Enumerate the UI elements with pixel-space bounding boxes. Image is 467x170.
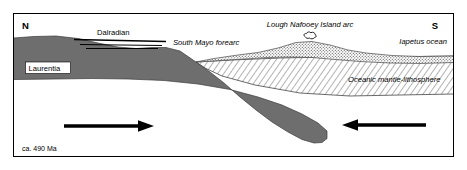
compass-south-label: S bbox=[432, 20, 438, 31]
laurentia-label-box: Laurentia bbox=[26, 62, 71, 74]
iapetus-ocean-label: Iapetus ocean bbox=[399, 37, 447, 46]
laurentia-label: Laurentia bbox=[29, 64, 61, 73]
oceanic-mantle-lithosphere-label: Oceanic mantle-lithosphere bbox=[348, 75, 440, 84]
cross-section-figure: Laurentia N S Dalradian South Mayo forea… bbox=[0, 0, 467, 170]
lough-nafooey-island-arc-label: Lough Nafooey Island arc bbox=[267, 20, 354, 29]
compass-north-label: N bbox=[22, 20, 29, 31]
dalradian-label: Dalradian bbox=[97, 28, 130, 37]
cross-section-canvas: Laurentia N S Dalradian South Mayo forea… bbox=[0, 0, 467, 170]
age-caption: ca. 490 Ma bbox=[22, 145, 57, 152]
south-mayo-forearc-label: South Mayo forearc bbox=[173, 38, 239, 47]
